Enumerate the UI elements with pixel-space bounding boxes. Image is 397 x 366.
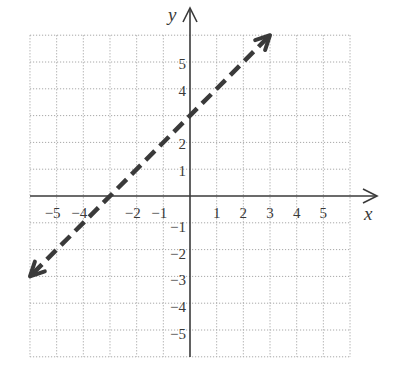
axes: x y bbox=[30, 4, 377, 357]
x-tick-label: −4 bbox=[71, 205, 87, 221]
x-tick-label: 5 bbox=[320, 205, 328, 221]
y-tick-label: 5 bbox=[179, 56, 187, 72]
y-tick-label: −3 bbox=[170, 272, 186, 288]
y-tick-label: −5 bbox=[170, 326, 186, 342]
x-tick-label: 4 bbox=[293, 205, 301, 221]
y-tick-label: −2 bbox=[170, 246, 186, 262]
x-tick-label: 3 bbox=[266, 205, 274, 221]
data-series bbox=[30, 35, 270, 276]
x-tick-label: 2 bbox=[240, 205, 248, 221]
y-tick-label: 1 bbox=[179, 163, 187, 179]
y-tick-label: −1 bbox=[170, 219, 186, 235]
y-tick-labels: 5421−1−2−3−4−5 bbox=[170, 56, 186, 342]
coordinate-plane: x y −5−4−2−112345 5421−1−2−3−4−5 bbox=[0, 0, 397, 366]
y-tick-label: 4 bbox=[179, 83, 187, 99]
y-tick-label: 2 bbox=[179, 136, 187, 152]
dashed-line bbox=[33, 38, 267, 274]
x-tick-label: −1 bbox=[151, 205, 167, 221]
x-tick-label: −2 bbox=[125, 205, 141, 221]
y-axis-label: y bbox=[166, 4, 177, 25]
y-tick-label: −4 bbox=[170, 299, 186, 315]
x-axis-label: x bbox=[363, 203, 373, 224]
x-tick-label: −5 bbox=[45, 205, 61, 221]
x-tick-label: 1 bbox=[213, 205, 221, 221]
